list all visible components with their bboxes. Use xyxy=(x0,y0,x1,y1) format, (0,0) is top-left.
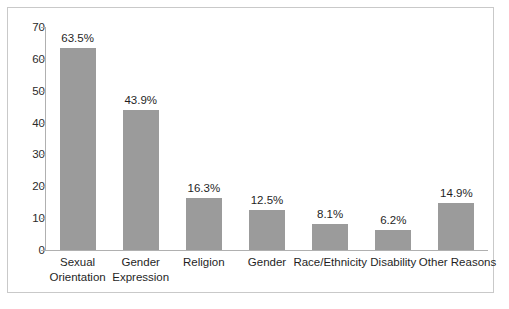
y-axis-tick-mark xyxy=(41,154,45,155)
x-axis-line xyxy=(45,250,488,251)
y-axis-tick-mark xyxy=(41,123,45,124)
x-axis-category-line: Other Reasons xyxy=(419,255,494,270)
y-axis-tick: 30 xyxy=(8,154,45,155)
bar-rect[interactable] xyxy=(438,203,474,250)
bar-chart-figure: 706050403020100 63.5%43.9%16.3%12.5%8.1%… xyxy=(7,7,494,293)
y-axis-tick: 70 xyxy=(8,27,45,28)
bar-value-label: 14.9% xyxy=(424,186,488,200)
y-axis-tick: 50 xyxy=(8,91,45,92)
bar-value-label: 63.5% xyxy=(46,31,110,45)
y-axis-tick-mark xyxy=(41,218,45,219)
bar-rect[interactable] xyxy=(123,110,159,250)
bar-series-group: 63.5%43.9%16.3%12.5%8.1%6.2%14.9% xyxy=(46,27,488,250)
bar-rect[interactable] xyxy=(249,210,285,250)
y-axis-tick-mark xyxy=(41,59,45,60)
plot-area: 706050403020100 63.5%43.9%16.3%12.5%8.1%… xyxy=(8,8,493,292)
y-axis-tick: 0 xyxy=(8,250,45,251)
bar-item[interactable]: 12.5% xyxy=(249,27,285,250)
bar-item[interactable]: 43.9% xyxy=(123,27,159,250)
y-axis-tick: 60 xyxy=(8,59,45,60)
bar-item[interactable]: 63.5% xyxy=(60,27,96,250)
x-axis-category-label: Other Reasons xyxy=(419,255,494,270)
bar-item[interactable]: 14.9% xyxy=(438,27,474,250)
y-axis-tick-mark xyxy=(41,91,45,92)
bar-rect[interactable] xyxy=(186,198,222,250)
y-axis-tick: 10 xyxy=(8,218,45,219)
bar-value-label: 12.5% xyxy=(235,193,299,207)
y-axis-tick-mark xyxy=(41,250,45,251)
bar-rect[interactable] xyxy=(312,224,348,250)
bar-value-label: 8.1% xyxy=(298,207,362,221)
bar-item[interactable]: 6.2% xyxy=(375,27,411,250)
y-axis-tick-mark xyxy=(41,186,45,187)
bar-value-label: 16.3% xyxy=(172,181,236,195)
y-axis-tick: 40 xyxy=(8,123,45,124)
bar-rect[interactable] xyxy=(375,230,411,250)
y-axis-tick-mark xyxy=(41,27,45,28)
x-axis-category-line: Expression xyxy=(103,270,178,285)
x-axis-category-group: SexualOrientationGenderExpressionReligio… xyxy=(46,255,488,291)
bar-rect[interactable] xyxy=(60,48,96,250)
bar-value-label: 6.2% xyxy=(361,213,425,227)
bar-item[interactable]: 8.1% xyxy=(312,27,348,250)
y-axis-tick: 20 xyxy=(8,186,45,187)
bar-item[interactable]: 16.3% xyxy=(186,27,222,250)
bar-value-label: 43.9% xyxy=(109,93,173,107)
